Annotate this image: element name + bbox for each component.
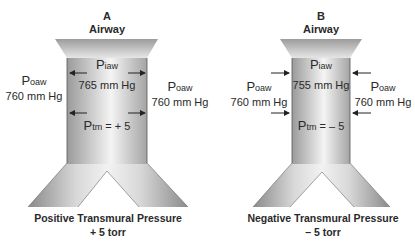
panel-b-outside-left: Poaw 760 mm Hg [229, 80, 289, 109]
panel-a-outside-right: Poaw 760 mm Hg [150, 80, 210, 109]
panel-a-title: Airway [82, 23, 132, 35]
panel-a-transmural: Ptm = + 5 [72, 119, 142, 134]
panel-b-outside-right: Poaw 760 mm Hg [352, 80, 414, 109]
panel-b-inside-value: 755 mm Hg [291, 78, 351, 92]
panel-a-inside-symbol: Piaw [87, 58, 127, 73]
panel-a-caption: Positive Transmural Pressure + 5 torr [18, 211, 198, 239]
panel-b-title: Airway [296, 23, 346, 35]
panel-b-transmural: Ptm = – 5 [286, 119, 356, 134]
panel-a-inside-value: 765 mm Hg [77, 78, 137, 92]
panel-b-inside-symbol: Piaw [301, 58, 341, 73]
panel-a-letter: A [97, 10, 117, 22]
panel-a-outside-left: Poaw 760 mm Hg [4, 74, 64, 103]
panel-b-caption: Negative Transmural Pressure – 5 torr [238, 211, 408, 239]
panel-b-letter: B [311, 10, 331, 22]
